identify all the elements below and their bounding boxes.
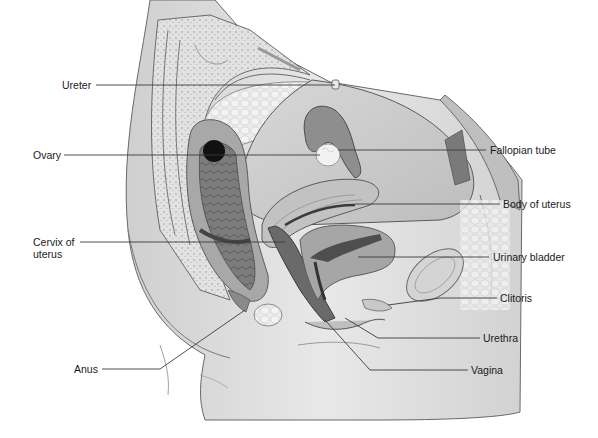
label-urinary-bladder: Urinary bladder [493, 251, 565, 263]
label-ureter: Ureter [62, 79, 91, 91]
ovary-marker [203, 140, 225, 162]
label-cervix-of-uterus: Cervix of uterus [33, 236, 74, 260]
label-clitoris: Clitoris [500, 292, 532, 304]
label-vagina: Vagina [471, 364, 503, 376]
label-urethra: Urethra [483, 332, 518, 344]
label-cervix-line1: Cervix of [33, 236, 74, 248]
label-body-of-uterus: Body of uterus [503, 198, 571, 210]
ureter-stub [332, 80, 339, 89]
label-cervix-line2: uterus [33, 248, 74, 260]
label-fallopian-tube: Fallopian tube [490, 144, 556, 156]
perineal-body [254, 304, 282, 326]
label-anus: Anus [74, 363, 98, 375]
label-ovary: Ovary [33, 149, 61, 161]
